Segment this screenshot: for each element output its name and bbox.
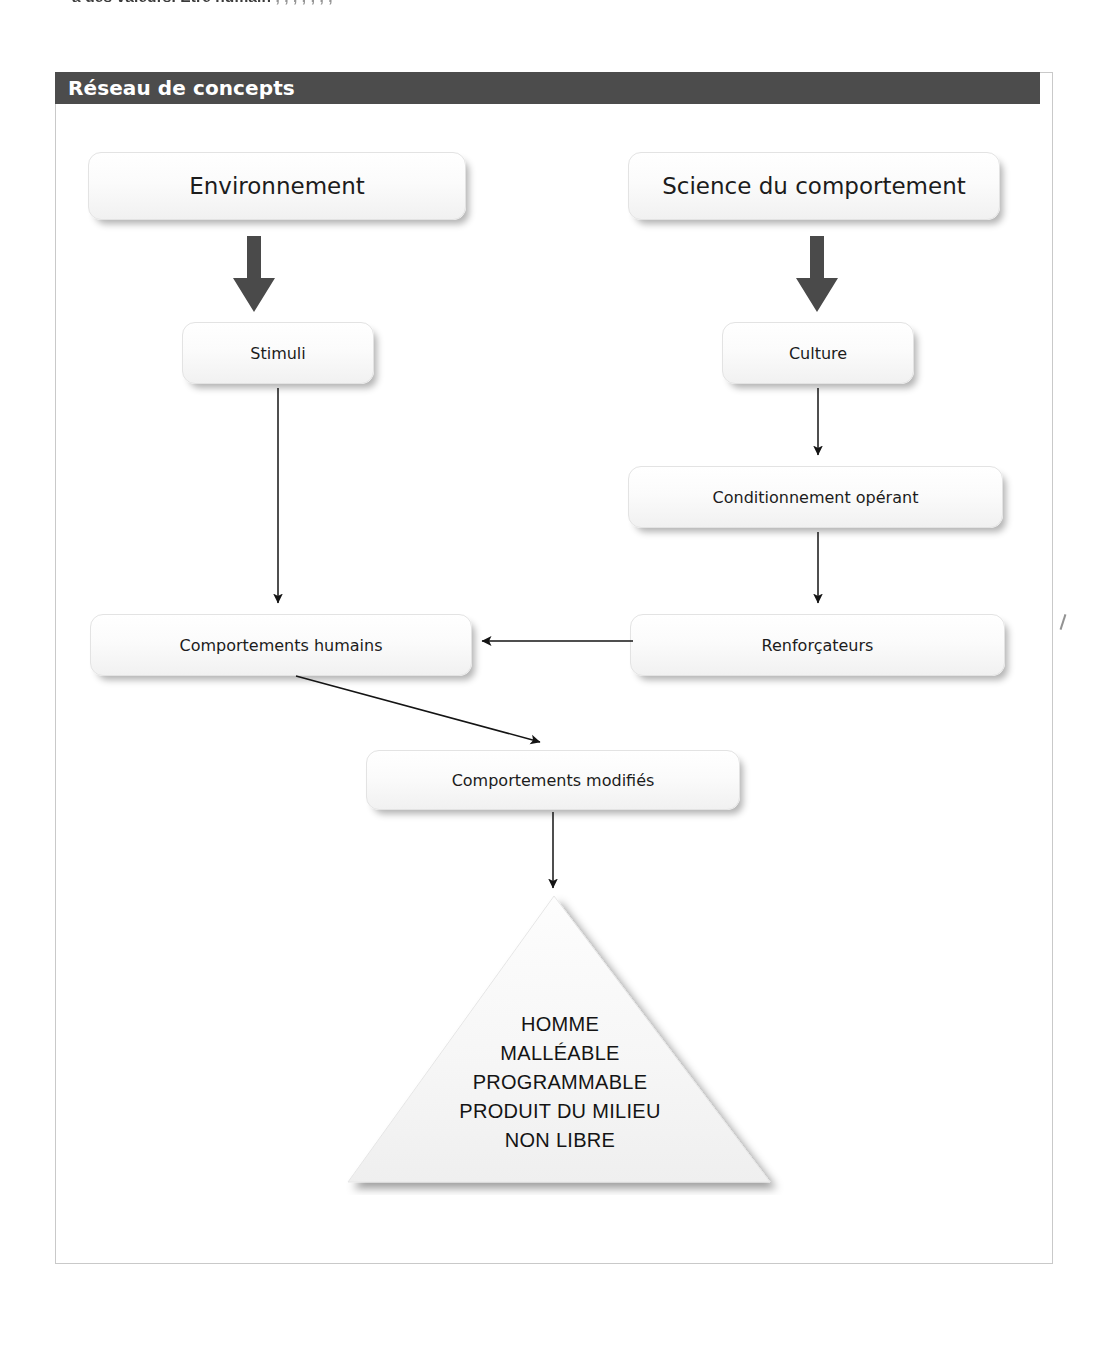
- node-comportements-humains-label: Comportements humains: [179, 636, 382, 655]
- cutoff-text-faded: , , , , , , ,: [271, 0, 333, 5]
- node-conditionnement-label: Conditionnement opérant: [713, 488, 919, 507]
- node-comportements-modifies[interactable]: Comportements modifiés: [366, 750, 740, 810]
- triangle-text-block: HOMME MALLÉABLE PROGRAMMABLE PRODUIT DU …: [330, 1010, 790, 1155]
- node-renforcateurs[interactable]: Renforçateurs: [630, 614, 1005, 676]
- node-renforcateurs-label: Renforçateurs: [762, 636, 874, 655]
- node-environnement[interactable]: Environnement: [88, 152, 466, 220]
- stray-pen-mark: [1060, 614, 1067, 630]
- section-header-title: Réseau de concepts: [68, 76, 295, 100]
- node-comportements-modifies-label: Comportements modifiés: [452, 771, 655, 790]
- section-header-bar: Réseau de concepts: [55, 72, 1040, 104]
- node-science-du-comportement[interactable]: Science du comportement: [628, 152, 1000, 220]
- triangle-line-3: PROGRAMMABLE: [330, 1068, 790, 1097]
- conclusion-triangle: HOMME MALLÉABLE PROGRAMMABLE PRODUIT DU …: [330, 890, 790, 1195]
- node-stimuli[interactable]: Stimuli: [182, 322, 374, 384]
- node-culture-label: Culture: [789, 344, 847, 363]
- node-conditionnement-operant[interactable]: Conditionnement opérant: [628, 466, 1003, 528]
- node-stimuli-label: Stimuli: [250, 344, 306, 363]
- triangle-line-1: HOMME: [330, 1010, 790, 1039]
- node-culture[interactable]: Culture: [722, 322, 914, 384]
- triangle-line-2: MALLÉABLE: [330, 1039, 790, 1068]
- triangle-line-4: PRODUIT DU MILIEU: [330, 1097, 790, 1126]
- page-root: à des valeurs. Être humain , , , , , , ,…: [0, 0, 1107, 1349]
- node-science-label: Science du comportement: [662, 173, 966, 199]
- node-environnement-label: Environnement: [189, 173, 365, 199]
- thick-arrow-glyph-2: [794, 236, 840, 314]
- thick-arrow-environnement-to-stimuli: [231, 236, 277, 314]
- cutoff-text-main: à des valeurs. Être humain: [72, 0, 271, 5]
- triangle-line-5: NON LIBRE: [330, 1126, 790, 1155]
- node-comportements-humains[interactable]: Comportements humains: [90, 614, 472, 676]
- thick-arrow-glyph: [231, 236, 277, 314]
- thick-arrow-science-to-culture: [794, 236, 840, 314]
- cutoff-running-text: à des valeurs. Être humain , , , , , , ,: [72, 0, 772, 10]
